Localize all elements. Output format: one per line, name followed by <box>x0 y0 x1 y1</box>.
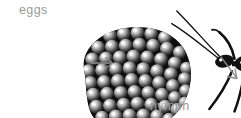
nymph-stage-label: nymph <box>150 100 190 113</box>
eggs-stage-label: eggs <box>19 4 48 17</box>
life-cycle-diagram: eggs <box>0 0 241 118</box>
diagonal-arrow-icon <box>219 54 241 84</box>
nymph-figure <box>114 6 218 100</box>
arrow-nymph-to-next <box>219 54 241 84</box>
egg-mass-figure <box>13 20 81 80</box>
